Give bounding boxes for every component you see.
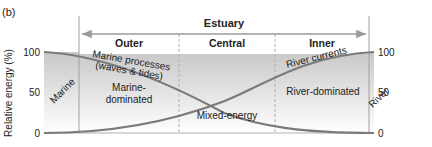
estuary-label: Estuary <box>204 17 245 29</box>
marine-dominated-label-2: dominated <box>106 94 153 105</box>
y-tick-right-100: 100 <box>378 47 395 58</box>
river-dominated-label: River-dominated <box>286 86 359 97</box>
panel-label: (b) <box>2 6 15 18</box>
y-tick-right-50: 50 <box>378 87 390 98</box>
estuary-energy-diagram: (b) Estuary Outer Central Inner Marine p… <box>0 0 432 147</box>
marine-dominated-label-1: Marine- <box>112 82 146 93</box>
zone-central-label: Central <box>209 37 245 49</box>
mixed-energy-label: Mixed-energy <box>197 110 258 121</box>
zone-outer-label: Outer <box>115 37 143 49</box>
y-tick-left-50: 50 <box>29 87 41 98</box>
y-tick-right-0: 0 <box>378 128 384 139</box>
y-tick-left-100: 100 <box>23 47 40 58</box>
y-axis-label: Relative energy (%) <box>3 49 14 137</box>
y-tick-left-0: 0 <box>34 128 40 139</box>
